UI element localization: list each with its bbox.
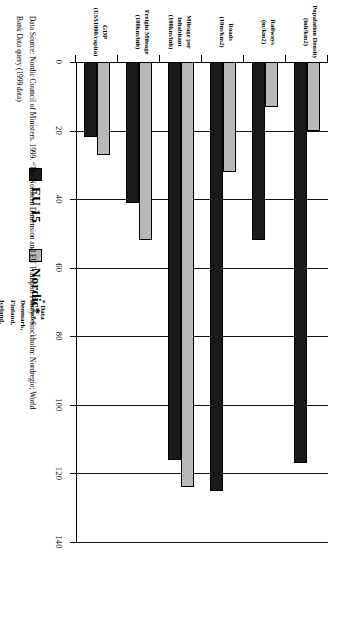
footnote-line: Iceland, <box>0 300 7 450</box>
category-label-unit: (m/km2) <box>259 4 268 60</box>
footnote-line: Finland, <box>7 300 17 450</box>
bar-nordic-railways <box>265 62 278 107</box>
gridline <box>76 473 328 474</box>
plot-frame <box>76 62 328 542</box>
value-axis-tick-label: 20 <box>54 126 64 135</box>
category-label-name: Roads <box>228 23 235 41</box>
bar-eu15-railways <box>252 62 265 240</box>
value-axis-tick-label: 40 <box>54 195 64 204</box>
bar-nordic-gdp <box>97 62 110 155</box>
category-axis-tick <box>75 55 76 62</box>
bar-eu15-roads <box>210 62 223 491</box>
footnote-line: * Data <box>38 300 48 450</box>
source-line-1: Data Source: Nordic Council of Ministers… <box>25 16 38 166</box>
value-axis-tick <box>70 131 76 132</box>
bar-nordic-roads <box>223 62 236 172</box>
bar-nordic-population-density <box>307 62 320 131</box>
gridline <box>76 542 328 543</box>
value-axis-tick-label: 80 <box>54 332 64 341</box>
category-label-name: GDP <box>102 25 109 39</box>
category-label-name: Freight Mileage <box>144 10 151 55</box>
category-axis-tick <box>201 55 202 62</box>
screenshot-root: 020406080100120140 Population Density(in… <box>0 0 344 628</box>
bar-eu15-population-density <box>294 62 307 463</box>
value-axis-tick-label: 140 <box>54 535 64 548</box>
category-label-roads: Roads(10m/km2) <box>217 4 235 60</box>
category-label-unit: (US$1000/capita) <box>91 4 100 60</box>
value-axis-tick <box>70 268 76 269</box>
gridline <box>76 336 328 337</box>
bar-nordic-mileage-per-inhabitant <box>181 62 194 487</box>
bar-eu15-mileage-per-inhabitant <box>168 62 181 460</box>
bar-nordic-freight-mileage <box>139 62 152 240</box>
category-label-mileage-per-inhabitant: Mileage per inhabitant(100km/inh) <box>166 4 193 60</box>
category-label-name: Population Density <box>312 5 319 59</box>
category-label-unit: (100km/inh) <box>133 4 142 60</box>
footnote-line: Denmark, <box>18 300 28 450</box>
gridline <box>76 199 328 200</box>
category-axis-tick <box>117 55 118 62</box>
value-axis-tick <box>70 336 76 337</box>
gridline <box>76 405 328 406</box>
value-axis-tick-label: 60 <box>54 263 64 272</box>
value-axis-tick <box>70 405 76 406</box>
bar-eu15-gdp <box>84 62 97 137</box>
category-label-unit: (10m/km2) <box>217 4 226 60</box>
value-axis-tick <box>70 473 76 474</box>
footnote-annotation: * Data includes Denmark, Finland, Icelan… <box>0 300 48 450</box>
plot-area: 020406080100120140 <box>76 62 328 542</box>
category-axis-tick <box>159 55 160 62</box>
category-axis-tick <box>243 55 244 62</box>
category-label-name: Mileage per inhabitant <box>177 15 193 49</box>
gridline <box>76 131 328 132</box>
category-label-name: Railways <box>270 19 277 45</box>
value-axis-tick <box>70 199 76 200</box>
bar-eu15-freight-mileage <box>126 62 139 203</box>
gridline <box>76 268 328 269</box>
chart-figure: 020406080100120140 Population Density(in… <box>0 0 344 628</box>
value-axis-tick <box>70 62 76 63</box>
category-label-unit: (100km/inh) <box>166 4 175 60</box>
source-line-2: Bank Data query (1999 data) <box>13 16 26 166</box>
category-label-freight-mileage: Freight Mileage(100km/inh) <box>133 4 151 60</box>
value-axis-tick <box>70 542 76 543</box>
category-label-unit: (inh/km2) <box>301 4 310 60</box>
value-axis-tick-label: 120 <box>54 467 64 480</box>
category-label-gdp: GDP(US$1000/capita) <box>91 4 109 60</box>
category-axis-tick <box>285 55 286 62</box>
value-axis-tick-label: 100 <box>54 398 64 411</box>
category-axis-tick <box>327 55 328 62</box>
value-axis-tick-label: 0 <box>54 60 64 64</box>
category-label-railways: Railways(m/km2) <box>259 4 277 60</box>
source-caption: Data Source: Nordic Council of Ministers… <box>13 16 38 166</box>
category-label-population-density: Population Density(inh/km2) <box>301 4 319 60</box>
